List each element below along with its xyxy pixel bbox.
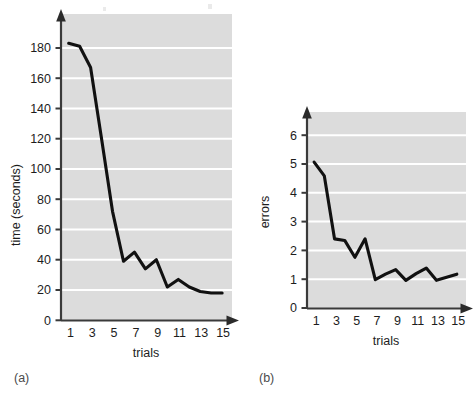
y-tick-label-b: 2 xyxy=(290,244,297,258)
y-tick-label-b: 5 xyxy=(290,157,297,171)
x-tick-label-b: 11 xyxy=(411,314,424,328)
x-axis-title-b: trials xyxy=(373,334,399,348)
panel-letter-a: (a) xyxy=(14,371,29,385)
y-tick-label-a: 20 xyxy=(37,283,51,297)
y-tick-label-a: 160 xyxy=(30,72,51,86)
panel-letter-b: (b) xyxy=(259,371,274,385)
x-tick-label-a: 3 xyxy=(89,326,96,340)
x-tick-label-b: 7 xyxy=(374,314,381,328)
chart-a-svg: 0 20 40 60 80 100 120 140 160 180 1 3 5 … xyxy=(0,0,245,399)
y-tick-label-b: 4 xyxy=(290,186,297,200)
x-tick-label-a: 15 xyxy=(216,326,230,340)
y-tick-label-a: 140 xyxy=(30,102,51,116)
figure-container: 0 20 40 60 80 100 120 140 160 180 1 3 5 … xyxy=(0,0,475,399)
x-axis-arrow-icon-a xyxy=(227,316,240,326)
y-tick-label-a: 40 xyxy=(37,253,51,267)
x-axis-arrow-icon-b xyxy=(461,304,474,314)
y-tick-label-a: 80 xyxy=(37,193,51,207)
chart-panel-a: 0 20 40 60 80 100 120 140 160 180 1 3 5 … xyxy=(0,0,245,399)
x-tick-label-a: 13 xyxy=(194,326,208,340)
x-tick-label-a: 5 xyxy=(111,326,118,340)
y-tick-label-a: 100 xyxy=(30,162,51,176)
y-tick-label-b: 1 xyxy=(290,273,297,287)
chart-b-svg: 0 1 2 3 4 5 6 1 3 5 7 9 11 13 15 errors … xyxy=(245,0,475,399)
y-tick-label-a: 0 xyxy=(44,314,51,328)
x-tick-label-a: 9 xyxy=(154,326,161,340)
x-tick-label-a: 1 xyxy=(67,326,74,340)
x-axis-title-a: trials xyxy=(133,346,159,360)
y-tick-label-a: 180 xyxy=(30,41,51,55)
x-tick-label-b: 5 xyxy=(353,314,360,328)
y-tick-label-a: 60 xyxy=(37,223,51,237)
x-tick-label-b: 13 xyxy=(431,314,445,328)
y-tick-label-b: 0 xyxy=(290,301,297,315)
chart-panel-b: 0 1 2 3 4 5 6 1 3 5 7 9 11 13 15 errors … xyxy=(245,0,475,399)
x-tick-label-b: 15 xyxy=(451,314,465,328)
y-axis-title-b: errors xyxy=(258,196,272,229)
y-axis-title-a: time (seconds) xyxy=(9,164,23,246)
y-tick-label-b: 3 xyxy=(290,215,297,229)
x-tick-label-a: 11 xyxy=(173,326,186,340)
y-tick-label-a: 120 xyxy=(30,132,51,146)
y-tick-label-b: 6 xyxy=(290,129,297,143)
x-tick-label-b: 1 xyxy=(313,314,320,328)
x-tick-label-b: 9 xyxy=(394,314,401,328)
x-tick-label-b: 3 xyxy=(333,314,340,328)
x-tick-label-a: 7 xyxy=(132,326,139,340)
